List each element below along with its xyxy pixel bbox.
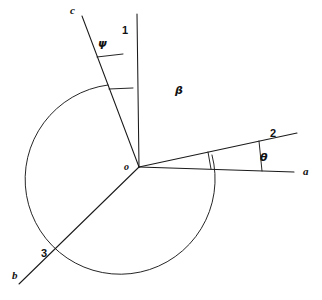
ray-c-line bbox=[82, 16, 139, 167]
ray-label-a: a bbox=[303, 166, 309, 177]
ray-label-2: 2 bbox=[270, 128, 276, 139]
ray-label-b: b bbox=[12, 270, 18, 281]
diagram-canvas bbox=[0, 0, 322, 300]
angle-diagram: o a 2 1 c b 3 ψ β θ bbox=[0, 0, 322, 300]
angle-label-theta: θ bbox=[260, 152, 268, 163]
angle-psi-tick-outer bbox=[97, 54, 123, 57]
ray-label-3: 3 bbox=[41, 248, 47, 259]
ray-label-c: c bbox=[70, 5, 75, 16]
angle-psi-tick-inner bbox=[109, 88, 133, 89]
ray-a-line bbox=[139, 167, 294, 172]
ray-1-line bbox=[137, 14, 139, 167]
ray-label-1: 1 bbox=[122, 25, 128, 36]
angle-theta-tick-inner bbox=[208, 152, 211, 169]
vertex-label-o: o bbox=[124, 162, 129, 172]
angle-label-psi: ψ bbox=[98, 38, 107, 49]
angle-label-beta: β bbox=[175, 85, 183, 96]
angle-beta-arc bbox=[25, 85, 215, 274]
